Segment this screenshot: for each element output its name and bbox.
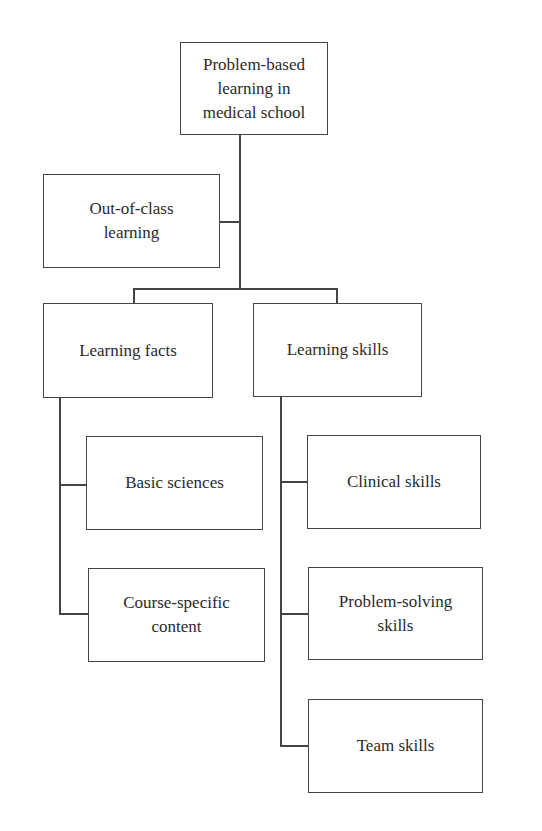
node-clinical-skills: Clinical skills xyxy=(307,435,481,529)
node-out-of-class-learning: Out-of-class learning xyxy=(43,174,220,268)
node-label: Learning facts xyxy=(79,339,177,363)
node-root: Problem-based learning in medical school xyxy=(180,42,328,135)
connector-to-learning-facts xyxy=(133,288,135,304)
node-label-line: Problem-solving xyxy=(339,590,452,614)
node-label-line: Out-of-class xyxy=(89,197,173,221)
node-learning-skills: Learning skills xyxy=(253,303,422,397)
connector-course-specific xyxy=(59,613,89,615)
node-label-line: Course-specific xyxy=(123,591,230,615)
node-label-line: skills xyxy=(339,614,452,638)
node-learning-facts: Learning facts xyxy=(43,303,213,398)
connector-team-skills xyxy=(280,745,309,747)
connector-branch-bar xyxy=(133,288,337,290)
node-label: Learning skills xyxy=(287,338,389,362)
node-problem-solving-skills: Problem-solving skills xyxy=(308,567,483,660)
connector-skills-spine xyxy=(280,396,282,746)
connector-basic-sciences xyxy=(59,484,87,486)
connector-root-trunk xyxy=(239,134,241,289)
node-basic-sciences: Basic sciences xyxy=(86,436,263,530)
node-label: Team skills xyxy=(357,734,435,758)
connector-facts-spine xyxy=(59,397,61,614)
connector-clinical-skills xyxy=(280,481,308,483)
node-label-line: learning xyxy=(89,221,173,245)
node-root-line: medical school xyxy=(203,101,305,125)
connector-to-learning-skills xyxy=(336,288,338,304)
connector-side-node xyxy=(219,221,240,223)
connector-problem-solving-skills xyxy=(280,613,309,615)
node-root-line: Problem-based xyxy=(203,53,305,77)
node-label: Clinical skills xyxy=(347,470,441,494)
node-team-skills: Team skills xyxy=(308,699,483,793)
node-course-specific-content: Course-specific content xyxy=(88,568,265,662)
node-label-line: content xyxy=(123,615,230,639)
node-label: Basic sciences xyxy=(125,471,224,495)
node-root-line: learning in xyxy=(203,77,305,101)
